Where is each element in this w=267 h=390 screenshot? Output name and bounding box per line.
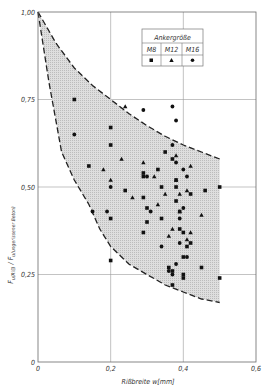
circle-marker xyxy=(174,119,178,123)
square-marker xyxy=(109,126,113,130)
x-axis-label: Rißbreite w[mm] xyxy=(122,378,176,386)
square-marker xyxy=(123,189,127,193)
square-marker xyxy=(203,189,207,193)
y-axis-label: Fu(Riß) / Fu(ungerissener Beton) xyxy=(7,206,17,284)
y-tick-label: 1,00 xyxy=(21,9,35,17)
square-marker xyxy=(163,150,167,154)
square-marker xyxy=(189,241,193,245)
circle-marker xyxy=(185,175,189,179)
circle-marker xyxy=(174,262,178,266)
circle-marker xyxy=(167,269,171,273)
square-marker xyxy=(160,185,164,189)
y-tick-label: 0,25 xyxy=(21,271,35,279)
square-marker xyxy=(218,185,222,189)
legend: Ankergröße M8 M12 M16 xyxy=(142,29,203,66)
y-tick-label: 0,75 xyxy=(21,96,35,104)
legend-title: Ankergröße xyxy=(153,34,191,42)
y-label-sub2: u(ungerissener Beton) xyxy=(10,206,17,257)
square-marker xyxy=(182,276,186,280)
y-label-sub1: u(Riß) xyxy=(10,266,16,280)
legend-label-m8: M8 xyxy=(147,46,156,54)
x-axis-ticks: 00,20,40,6 xyxy=(36,365,261,373)
circle-marker xyxy=(171,273,175,277)
square-marker xyxy=(160,217,164,221)
square-marker xyxy=(156,168,160,172)
circle-marker xyxy=(181,168,185,172)
y-tick-label: 0,50 xyxy=(21,184,35,192)
square-marker xyxy=(174,185,178,189)
square-marker xyxy=(182,273,186,277)
circle-marker xyxy=(178,217,182,221)
circle-marker xyxy=(141,108,145,112)
square-marker xyxy=(185,245,189,249)
circle-marker xyxy=(109,185,113,189)
circle-marker xyxy=(181,206,185,210)
square-marker xyxy=(142,171,146,175)
legend-label-m16: M16 xyxy=(186,46,199,54)
square-marker xyxy=(218,276,222,280)
square-marker xyxy=(109,143,113,147)
circle-marker xyxy=(149,210,153,214)
triangle-marker xyxy=(123,104,127,108)
circle-marker xyxy=(185,255,189,259)
square-marker xyxy=(145,220,149,224)
square-marker xyxy=(167,266,171,270)
square-marker xyxy=(182,231,186,235)
y-axis-ticks: 00,250,500,751,00 xyxy=(21,9,35,367)
circle-marker xyxy=(178,241,182,245)
square-marker xyxy=(178,227,182,231)
x-tick-label: 0,2 xyxy=(106,365,116,373)
circle-marker xyxy=(171,105,175,109)
square-marker xyxy=(73,98,77,102)
square-marker xyxy=(171,283,175,287)
circle-marker xyxy=(145,175,149,179)
circle-marker xyxy=(160,245,164,249)
square-marker xyxy=(182,255,186,259)
circle-marker xyxy=(105,210,109,214)
square-marker-icon xyxy=(150,59,154,63)
circle-marker-icon xyxy=(191,59,195,63)
square-marker xyxy=(87,164,91,168)
circle-marker xyxy=(91,210,95,214)
square-marker xyxy=(142,196,146,200)
square-marker xyxy=(189,192,193,196)
x-tick-label: 0,6 xyxy=(251,365,261,373)
square-marker xyxy=(171,157,175,161)
x-tick-label: 0,4 xyxy=(178,365,188,373)
legend-label-m12: M12 xyxy=(165,46,178,54)
square-marker xyxy=(109,217,113,221)
x-tick-label: 0 xyxy=(36,365,40,373)
y-label-sep: / F xyxy=(7,256,15,266)
square-marker xyxy=(142,231,146,235)
scatter-chart: 00,20,40,6 00,250,500,751,00 Rißbreite w… xyxy=(0,0,267,390)
square-marker xyxy=(200,266,204,270)
square-marker xyxy=(145,206,149,210)
y-tick-label: 0 xyxy=(31,359,35,367)
square-marker xyxy=(174,199,178,203)
square-marker xyxy=(171,269,175,273)
circle-marker xyxy=(174,161,178,165)
circle-marker xyxy=(72,133,76,137)
circle-marker xyxy=(171,143,175,147)
square-marker xyxy=(109,259,113,263)
square-marker xyxy=(142,175,146,179)
